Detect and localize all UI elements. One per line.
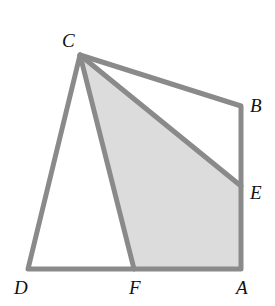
shaded-region-CEAF [80,55,241,269]
label-E: E [249,182,262,203]
label-C: C [62,30,75,51]
label-A: A [234,277,248,298]
label-D: D [13,277,28,298]
label-F: F [128,277,141,298]
geometry-diagram: C B E A D F [0,0,275,306]
label-B: B [250,95,262,116]
